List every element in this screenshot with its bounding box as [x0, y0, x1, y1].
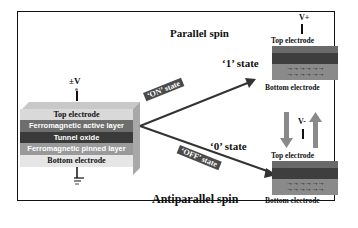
top-cell-top-label: Top electrode — [271, 36, 314, 45]
terminal-wire-top — [301, 24, 303, 34]
parallel-spin-label: Parallel spin — [170, 27, 229, 39]
antiparallel-spin-label: Antiparallel spin — [152, 192, 238, 207]
spin-arrows: →→ →→ →→ — [272, 186, 338, 192]
bottom-cell-bottom-label: Bottom electrode — [265, 196, 320, 205]
state-0-label: ‘0’ state — [210, 140, 247, 152]
voltage-label-plus: V+ — [299, 13, 309, 22]
bottom-cell-top-label: Top electrode — [271, 151, 314, 160]
terminal-wire-bottom — [302, 129, 304, 139]
spin-arrows: →→ →→ →→ — [272, 71, 338, 77]
top-cell-bottom-label: Bottom electrode — [265, 83, 320, 92]
antiparallel-mtj-cell: →→ →→ →→ →→ →→ →→ — [272, 161, 338, 195]
voltage-label-minus: V- — [298, 117, 306, 126]
state-1-label: ‘1’ state — [222, 57, 259, 69]
parallel-mtj-cell: →→ →→ →→ →→ →→ →→ — [272, 46, 338, 80]
